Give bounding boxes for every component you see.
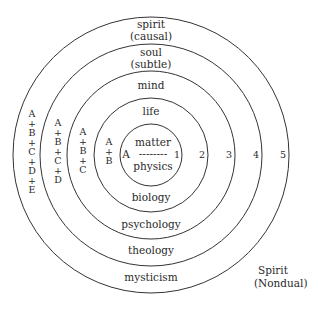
- label-spirit-nondual-1: Spirit: [258, 264, 289, 276]
- label-causal: (causal): [130, 30, 172, 42]
- label-psychology: psychology: [121, 218, 180, 230]
- stack-token: D: [54, 174, 62, 185]
- label-mysticism: mysticism: [124, 271, 177, 283]
- stack-a-b-c-d: A+B+C+D: [54, 117, 63, 185]
- label-matter: matter: [135, 136, 172, 148]
- label-biology: biology: [132, 191, 171, 203]
- label-life: life: [143, 105, 160, 117]
- number-1: 1: [174, 149, 180, 160]
- stack-token: B: [106, 155, 113, 166]
- number-4: 4: [253, 149, 259, 160]
- label-theology: theology: [128, 244, 174, 256]
- stack-a-b: A+B: [105, 136, 113, 166]
- label-inner-a: A: [121, 148, 130, 160]
- stack-a-b-c: A+B+C: [79, 126, 87, 175]
- number-5: 5: [280, 149, 286, 160]
- stack-token: C: [79, 164, 86, 175]
- label-spirit: spirit: [137, 18, 166, 30]
- label-mind: mind: [138, 79, 165, 91]
- stack-token: E: [29, 184, 36, 195]
- number-2: 2: [199, 149, 205, 160]
- label-subtle: (subtle): [131, 58, 172, 70]
- label-spirit-nondual-2: (Nondual): [254, 277, 308, 289]
- stack-a-b-c-d-e: A+B+C+D+E: [28, 108, 37, 195]
- number-3: 3: [226, 149, 232, 160]
- divider-dashes: --------: [139, 148, 168, 160]
- nested-circles-diagram: spirit (causal) soul (subtle) mind life …: [0, 0, 318, 309]
- label-physics: physics: [133, 160, 172, 172]
- label-soul: soul: [140, 46, 162, 58]
